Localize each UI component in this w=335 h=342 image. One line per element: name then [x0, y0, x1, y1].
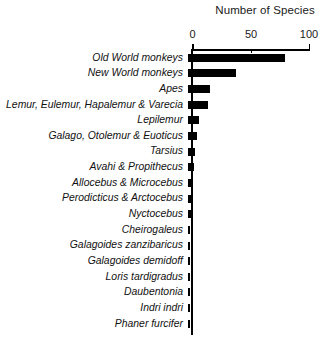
bar — [188, 101, 208, 109]
bar-row: Loris tardigradus — [0, 269, 335, 285]
bar-row: New World monkeys — [0, 66, 335, 82]
bar — [188, 132, 197, 140]
bar-row: Galagoides zanzibaricus — [0, 238, 335, 254]
bar-row-label: New World monkeys — [0, 68, 188, 78]
bar-row-label: Perodicticus & Arctocebus — [0, 193, 188, 203]
bar-row: Apes — [0, 81, 335, 97]
bar-row-label: Galagoides zanzibaricus — [0, 240, 188, 250]
bar — [188, 179, 193, 187]
x-axis-label-100: 100 — [300, 28, 318, 40]
bar-track — [188, 128, 335, 144]
bar-row: Cheirogaleus — [0, 222, 335, 238]
bar-track — [188, 81, 335, 97]
bar-row: Allocebus & Microcebus — [0, 175, 335, 191]
bar-row: Galago, Otolemur & Euoticus — [0, 128, 335, 144]
bar-row-label: Apes — [0, 84, 188, 94]
bar-row-label: Nyctocebus — [0, 209, 188, 219]
bar-track — [188, 191, 335, 207]
bar-row-label: Indri indri — [0, 303, 188, 313]
bar — [188, 304, 190, 312]
chart-container: Number of Species 0 50 100 Old World mon… — [0, 0, 335, 342]
bar-row-label: Galagoides demidoff — [0, 256, 188, 266]
bar-row-label: Tarsius — [0, 146, 188, 156]
bar — [188, 273, 190, 281]
x-axis-label-50: 50 — [245, 28, 257, 40]
bar — [188, 163, 194, 171]
bar-track — [188, 175, 335, 191]
bar-row: Old World monkeys — [0, 50, 335, 66]
bar-track — [188, 159, 335, 175]
bar-row: Nyctocebus — [0, 206, 335, 222]
bar-track — [188, 269, 335, 285]
bar-track — [188, 222, 335, 238]
bar-row: Galagoides demidoff — [0, 253, 335, 269]
bar-row: Perodicticus & Arctocebus — [0, 191, 335, 207]
x-axis-label-0: 0 — [189, 28, 195, 40]
bar-row: Lepilemur — [0, 113, 335, 129]
bar-row-label: Loris tardigradus — [0, 272, 188, 282]
bar-track — [188, 206, 335, 222]
bar-row-label: Galago, Otolemur & Euoticus — [0, 131, 188, 141]
bar — [188, 195, 193, 203]
bar-row-label: Lemur, Eulemur, Hapalemur & Varecia — [0, 100, 188, 110]
bar — [188, 210, 192, 218]
bar — [188, 116, 199, 124]
bar-row: Tarsius — [0, 144, 335, 160]
bar-track — [188, 253, 335, 269]
bar-row-label: Old World monkeys — [0, 53, 188, 63]
bar — [188, 69, 236, 77]
bar-row: Phaner furcifer — [0, 316, 335, 332]
bar — [188, 54, 285, 62]
bar — [188, 242, 190, 250]
bar-track — [188, 97, 335, 113]
bar-row-label: Lepilemur — [0, 115, 188, 125]
bar-row-label: Allocebus & Microcebus — [0, 178, 188, 188]
bar-rows: Old World monkeysNew World monkeysApesLe… — [0, 50, 335, 332]
bar-row: Indri indri — [0, 300, 335, 316]
bar-track — [188, 113, 335, 129]
bar-track — [188, 66, 335, 82]
bar — [188, 85, 210, 93]
bar — [188, 148, 195, 156]
bar-row-label: Daubentonia — [0, 287, 188, 297]
bar-track — [188, 144, 335, 160]
bar-track — [188, 285, 335, 301]
bar-row: Lemur, Eulemur, Hapalemur & Varecia — [0, 97, 335, 113]
bar-track — [188, 316, 335, 332]
bar — [188, 288, 190, 296]
bar-track — [188, 238, 335, 254]
bar-track — [188, 300, 335, 316]
bar-row: Avahi & Propithecus — [0, 159, 335, 175]
bar — [188, 226, 190, 234]
bar-row-label: Avahi & Propithecus — [0, 162, 188, 172]
bar-row-label: Cheirogaleus — [0, 225, 188, 235]
bar — [188, 257, 190, 265]
bar — [188, 320, 190, 328]
bar-row-label: Phaner furcifer — [0, 319, 188, 329]
bar-track — [188, 50, 335, 66]
bar-row: Daubentonia — [0, 285, 335, 301]
